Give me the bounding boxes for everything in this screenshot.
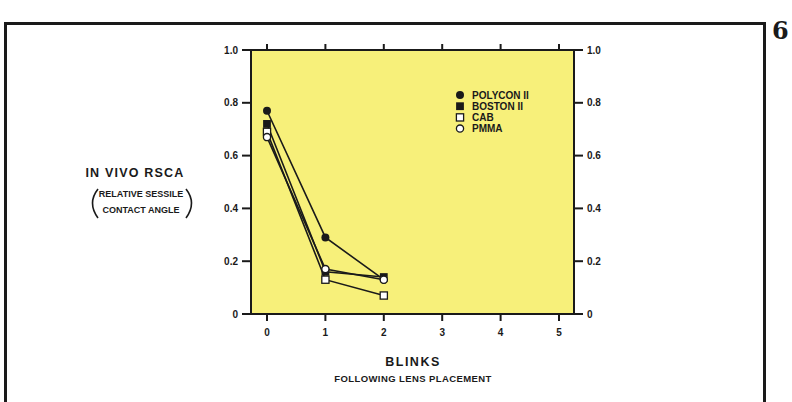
left-y-axis: 00.20.40.60.81.0	[224, 45, 251, 320]
legend-item-label: CAB	[472, 112, 494, 123]
right-y-tick-label: 0	[587, 309, 593, 320]
open-circle-marker	[456, 125, 463, 132]
left-y-tick-label: 0.2	[224, 256, 238, 267]
right-y-tick-label: 0.2	[587, 256, 601, 267]
right-paren	[186, 189, 192, 218]
right-y-axis: 00.20.40.60.81.0	[574, 45, 601, 320]
open-circle-marker	[263, 134, 270, 141]
open-circle-marker	[380, 276, 387, 283]
right-y-tick-label: 1.0	[587, 45, 601, 56]
filled-circle-marker	[263, 107, 271, 115]
filled-circle-marker	[456, 91, 464, 99]
x-tick-label: 1	[323, 327, 329, 338]
legend-item-label: POLYCON II	[472, 90, 529, 101]
right-y-tick-label: 0.6	[587, 150, 601, 161]
left-y-tick-label: 1.0	[224, 45, 238, 56]
x-axis-subtitle: FOLLOWING LENS PLACEMENT	[334, 373, 491, 384]
y-axis-subtitle-line2: CONTACT ANGLE	[103, 205, 180, 215]
y-axis-title: IN VIVO RSCA	[85, 166, 184, 180]
x-tick-label: 0	[264, 327, 270, 338]
left-y-tick-label: 0.8	[224, 97, 238, 108]
legend-item-label: PMMA	[472, 123, 503, 134]
left-y-tick-label: 0	[232, 309, 238, 320]
x-axis: 012345	[264, 314, 562, 338]
x-axis-title: BLINKS	[385, 355, 441, 369]
x-tick-label: 2	[381, 327, 387, 338]
x-tick-label: 3	[439, 327, 445, 338]
left-y-tick-label: 0.4	[224, 203, 238, 214]
right-y-tick-label: 0.4	[587, 203, 601, 214]
y-axis-subtitle-line1: RELATIVE SESSILE	[99, 189, 183, 199]
left-paren	[93, 189, 99, 218]
x-tick-label: 5	[556, 327, 562, 338]
x-tick-label: 4	[498, 327, 504, 338]
right-y-tick-label: 0.8	[587, 97, 601, 108]
filled-square-marker	[456, 102, 464, 110]
open-circle-marker	[322, 266, 329, 273]
open-square-marker	[322, 276, 329, 283]
open-square-marker	[456, 114, 463, 121]
open-square-marker	[380, 292, 387, 299]
left-y-tick-label: 0.6	[224, 150, 238, 161]
filled-square-marker	[263, 120, 271, 128]
filled-circle-marker	[321, 233, 329, 241]
legend-item-label: BOSTON II	[472, 101, 523, 112]
